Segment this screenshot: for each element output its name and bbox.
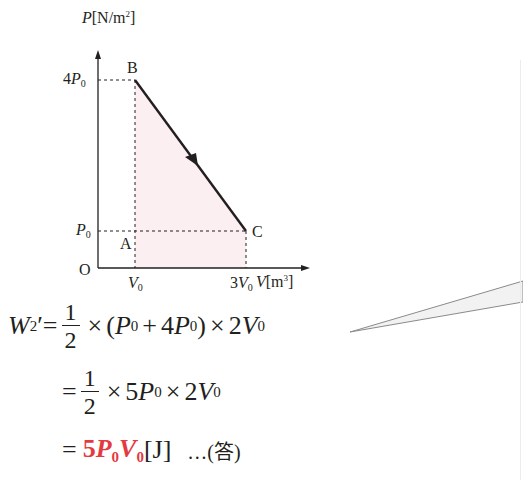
- work-symbol: W: [8, 311, 30, 341]
- x-axis-label: V[m3]: [256, 274, 293, 290]
- coefficient: 5: [125, 377, 138, 407]
- tick-sym: P: [76, 221, 86, 238]
- plus-sign: +: [142, 311, 157, 341]
- tick-sym: V: [238, 274, 248, 291]
- tick-coef: 4: [63, 70, 71, 87]
- p-symbol: P: [138, 377, 154, 407]
- times-sign: ×: [210, 311, 225, 341]
- coefficient: 5: [83, 434, 96, 463]
- times-sign: ×: [107, 377, 122, 407]
- tick-sym: P: [71, 70, 81, 87]
- x-axis-symbol: V: [256, 273, 266, 290]
- paren-close: ): [197, 311, 206, 341]
- callout-edge: [520, 60, 521, 480]
- v-subscript: 0: [136, 449, 144, 465]
- numerator: 1: [81, 366, 99, 392]
- equation-line-1: W2′ = 12 × (P0 + 4P0) × 2V0: [8, 300, 265, 352]
- paren-open: (: [106, 311, 115, 341]
- equals-sign: =: [43, 311, 58, 341]
- fraction-half: 12: [81, 366, 99, 418]
- p-symbol: P: [115, 311, 131, 341]
- y-axis-symbol: P: [82, 9, 92, 26]
- p-symbol: P: [174, 311, 190, 341]
- p-subscript: 0: [154, 384, 162, 401]
- denominator: 2: [84, 392, 96, 418]
- v-subscript: 0: [258, 318, 266, 335]
- x-axis-arrow-icon: [301, 265, 310, 271]
- p-subscript: 0: [190, 318, 198, 335]
- point-c-label: C: [252, 224, 263, 240]
- v-symbol: V: [242, 311, 258, 341]
- x-axis-unit-close: ]: [288, 273, 293, 290]
- y-axis-unit: [N/m: [92, 9, 126, 26]
- tick-sub: 0: [86, 229, 91, 240]
- v-subscript: 0: [213, 384, 221, 401]
- unit-joule: [J]: [144, 435, 171, 465]
- answer-mark: …(答): [187, 436, 240, 465]
- y-axis-arrow-icon: [95, 50, 101, 59]
- coefficient: 2: [184, 377, 197, 407]
- x-tick-v0: V0: [128, 275, 143, 293]
- tick-sub: 0: [248, 282, 253, 293]
- point-b-label: B: [127, 60, 138, 76]
- x-tick-3v0: 3V0: [230, 275, 253, 293]
- times-sign: ×: [88, 311, 103, 341]
- equals-sign: =: [62, 435, 77, 465]
- p-symbol: P: [96, 434, 112, 463]
- callout-tail: [350, 281, 523, 332]
- denominator: 2: [65, 326, 77, 352]
- coefficient: 2: [229, 311, 242, 341]
- times-sign: ×: [166, 377, 181, 407]
- coefficient: 4: [161, 311, 174, 341]
- equals-sign: =: [62, 377, 77, 407]
- point-a-label: A: [120, 236, 132, 252]
- y-axis-label: P[N/m2]: [82, 10, 135, 26]
- tick-coef: 3: [230, 274, 238, 291]
- fraction-half: 12: [62, 300, 80, 352]
- numerator: 1: [62, 300, 80, 326]
- work-subscript: 2: [30, 318, 38, 335]
- origin-label: O: [79, 262, 91, 278]
- x-axis-unit: [m: [266, 273, 284, 290]
- work-area-fill: [135, 80, 246, 268]
- equation-line-2: = 12 × 5P0 × 2V0: [62, 366, 221, 418]
- y-tick-p0: P0: [76, 222, 91, 240]
- y-axis-unit-close: ]: [130, 9, 135, 26]
- y-tick-4p0: 4P0: [63, 71, 86, 89]
- p-subscript: 0: [112, 449, 120, 465]
- answer-value: 5P0V0: [83, 434, 144, 466]
- v-symbol: V: [197, 377, 213, 407]
- p-subscript: 0: [131, 318, 139, 335]
- tick-sub: 0: [81, 78, 86, 89]
- equation-line-3: = 5P0V0 [J] …(答): [62, 434, 241, 466]
- tick-sym: V: [128, 274, 138, 291]
- tick-sub: 0: [138, 282, 143, 293]
- v-symbol: V: [119, 434, 136, 463]
